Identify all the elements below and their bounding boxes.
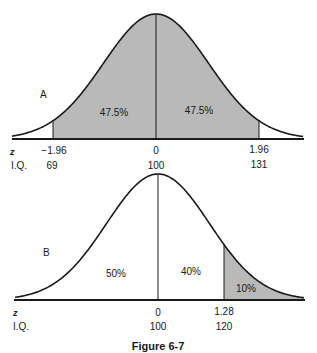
panel-a-region-left-percent: 47.5% [100, 107, 128, 118]
panel-a-z-axis-label: z [10, 147, 15, 158]
panel-a-tick-z-mean: 0 [153, 145, 159, 156]
panel-b-normal-curve [15, 174, 304, 298]
panel-a-label: A [40, 89, 47, 100]
panel-a-tick-iq-left: 69 [46, 160, 57, 171]
panel-b-region-left-percent: 50% [106, 268, 126, 279]
panel-a-region-right-percent: 47.5% [185, 105, 213, 116]
normal-curves-figure [0, 0, 317, 353]
panel-b [14, 174, 305, 300]
panel-a-iq-axis-label: I.Q. [11, 160, 27, 171]
panel-b-tick-z-cutoff: 1.28 [214, 306, 233, 317]
panel-b-z-axis-label: z [13, 308, 18, 319]
panel-a-tick-z-right: 1.96 [249, 144, 268, 155]
panel-b-region-tail-percent: 10% [236, 283, 256, 294]
figure-caption: Figure 6-7 [132, 340, 185, 352]
panel-a-tick-iq-mean: 100 [148, 160, 165, 171]
panel-b-tick-iq-mean: 100 [150, 321, 167, 332]
panel-a [12, 14, 304, 139]
panel-b-label: B [43, 247, 50, 258]
panel-a-tick-z-left: −1.96 [41, 145, 66, 156]
panel-a-tick-iq-right: 131 [251, 159, 268, 170]
panel-b-iq-axis-label: I.Q. [13, 321, 29, 332]
panel-b-tick-iq-cutoff: 120 [216, 321, 233, 332]
panel-b-region-middle-percent: 40% [181, 266, 201, 277]
panel-b-tick-z-mean: 0 [155, 307, 161, 318]
